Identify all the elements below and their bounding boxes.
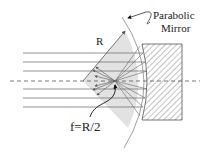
focal-length-label: f=R/2 — [70, 120, 100, 133]
mirror-label: Mirror — [161, 23, 190, 34]
mirror-block — [142, 44, 182, 120]
parabolic-label: Parabolic — [153, 10, 195, 21]
radius-label: R — [96, 36, 103, 47]
label-pointer — [128, 12, 151, 24]
